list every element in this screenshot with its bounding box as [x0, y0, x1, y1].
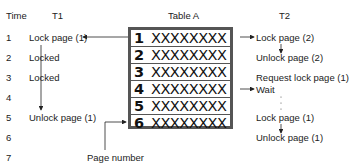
connector-arrows [0, 0, 353, 168]
